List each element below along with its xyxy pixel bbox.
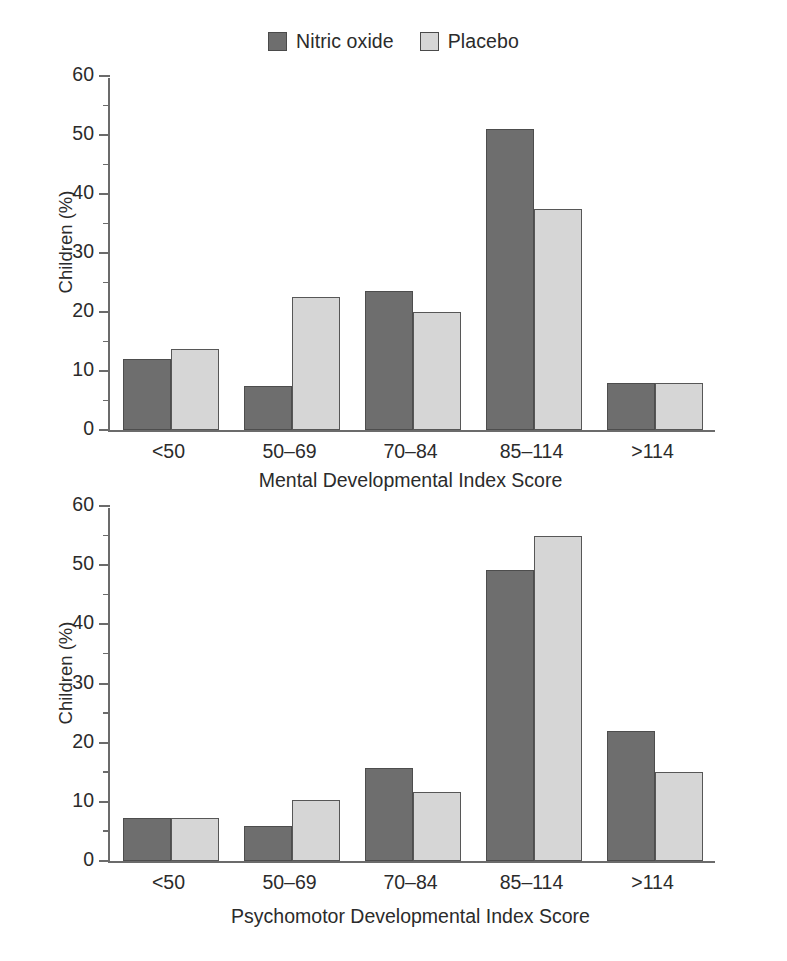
y-axis-tick-mark <box>99 193 110 195</box>
y-axis-tick-mark <box>103 594 110 596</box>
y-axis-tick-label: 50 <box>72 122 94 145</box>
x-axis-tick-label: <50 <box>119 440 219 463</box>
y-axis-tick-label: 10 <box>72 789 94 812</box>
bar-nitric-oxide[interactable] <box>123 359 171 430</box>
x-axis-tick-label: 85–114 <box>482 871 582 894</box>
y-axis-tick-label: 20 <box>72 730 94 753</box>
bar-placebo[interactable] <box>171 349 219 430</box>
bar-group-70-84 <box>365 768 461 861</box>
x-axis-tick-labels-bottom: <5050–6970–8485–114>114 <box>108 871 713 894</box>
bar-groups-bottom <box>110 508 715 861</box>
chart-legend: Nitric oxide Placebo <box>0 30 787 53</box>
y-axis-tick-label: 30 <box>72 240 94 263</box>
y-axis-tick-mark <box>103 282 110 284</box>
legend-item-placebo: Placebo <box>420 30 519 53</box>
y-axis-tick-label: 50 <box>72 552 94 575</box>
bar-placebo[interactable] <box>534 209 582 430</box>
bar-group--114 <box>607 731 703 861</box>
y-axis-tick-mark <box>103 535 110 537</box>
bar-placebo[interactable] <box>655 772 703 861</box>
bar-group-85-114 <box>486 129 582 430</box>
y-axis-tick-label: 30 <box>72 671 94 694</box>
y-axis-tick-label: 20 <box>72 299 94 322</box>
plot-area-bottom: 0102030405060 <box>108 508 715 863</box>
bar-placebo[interactable] <box>171 818 219 861</box>
legend-swatch-light-icon <box>420 32 439 51</box>
x-axis-tick-label: >114 <box>603 440 703 463</box>
y-axis-tick-mark <box>103 400 110 402</box>
bar-nitric-oxide[interactable] <box>486 129 534 430</box>
y-axis-tick-mark <box>99 742 110 744</box>
chart-psychomotor-developmental-index: Children (%) 0102030405060 <5050–6970–84… <box>0 496 787 946</box>
bar-nitric-oxide[interactable] <box>244 386 292 430</box>
y-axis-tick-mark <box>103 223 110 225</box>
x-axis-tick-label: <50 <box>119 871 219 894</box>
legend-label-placebo: Placebo <box>448 30 519 53</box>
y-axis-tick-mark <box>99 252 110 254</box>
bar-placebo[interactable] <box>413 792 461 861</box>
chart-mental-developmental-index: Children (%) 0102030405060 <5050–6970–84… <box>0 66 787 496</box>
y-axis-tick-mark <box>99 623 110 625</box>
y-axis-tick-mark <box>103 653 110 655</box>
bar-group--114 <box>607 383 703 430</box>
bar-placebo[interactable] <box>292 800 340 861</box>
y-axis-tick-mark <box>99 370 110 372</box>
bar-placebo[interactable] <box>292 297 340 430</box>
bar-group-50-69 <box>244 800 340 861</box>
bar-placebo[interactable] <box>534 536 582 861</box>
y-axis-tick-label: 40 <box>72 181 94 204</box>
x-axis-tick-label: 85–114 <box>482 440 582 463</box>
x-axis-tick-label: 50–69 <box>240 871 340 894</box>
bar-nitric-oxide[interactable] <box>365 291 413 430</box>
x-axis-title-top: Mental Developmental Index Score <box>108 469 713 492</box>
y-axis-tick-mark <box>103 164 110 166</box>
y-axis-tick-label: 0 <box>83 417 94 440</box>
bar-group-50-69 <box>244 297 340 430</box>
x-axis-tick-label: 70–84 <box>361 440 461 463</box>
y-axis-tick-mark <box>99 429 110 431</box>
y-axis-tick-mark <box>99 505 110 507</box>
legend-label-nitric-oxide: Nitric oxide <box>296 30 394 53</box>
bar-nitric-oxide[interactable] <box>244 826 292 862</box>
x-axis-tick-label: 70–84 <box>361 871 461 894</box>
y-axis-tick-mark <box>99 860 110 862</box>
y-axis-tick-mark <box>99 564 110 566</box>
bar-groups-top <box>110 78 715 430</box>
y-axis-tick-mark <box>99 134 110 136</box>
x-axis-title-bottom: Psychomotor Developmental Index Score <box>108 905 713 928</box>
y-axis-tick-label: 0 <box>83 848 94 871</box>
y-axis-tick-mark <box>99 311 110 313</box>
y-axis-tick-mark <box>99 75 110 77</box>
y-axis-tick-label: 60 <box>72 493 94 516</box>
legend-item-nitric-oxide: Nitric oxide <box>268 30 394 53</box>
x-axis-tick-labels-top: <5050–6970–8485–114>114 <box>108 440 713 463</box>
y-axis-tick-mark <box>103 712 110 714</box>
bar-nitric-oxide[interactable] <box>486 570 534 861</box>
x-axis-tick-label: 50–69 <box>240 440 340 463</box>
figure-root: Nitric oxide Placebo Children (%) 010203… <box>0 0 787 961</box>
y-axis-tick-mark <box>103 771 110 773</box>
y-axis-tick-mark <box>103 830 110 832</box>
y-axis-tick-mark <box>99 683 110 685</box>
bar-group--50 <box>123 818 219 861</box>
y-axis-tick-mark <box>103 341 110 343</box>
plot-area-top: 0102030405060 <box>108 78 715 432</box>
bar-group--50 <box>123 349 219 430</box>
bar-placebo[interactable] <box>655 383 703 430</box>
bar-group-70-84 <box>365 291 461 430</box>
y-axis-tick-mark <box>103 105 110 107</box>
y-axis-tick-label: 60 <box>72 63 94 86</box>
y-axis-tick-label: 10 <box>72 358 94 381</box>
bar-nitric-oxide[interactable] <box>123 818 171 861</box>
bar-placebo[interactable] <box>413 312 461 430</box>
x-axis-tick-label: >114 <box>603 871 703 894</box>
bar-nitric-oxide[interactable] <box>607 731 655 861</box>
bar-group-85-114 <box>486 536 582 861</box>
y-axis-tick-mark <box>99 801 110 803</box>
bar-nitric-oxide[interactable] <box>607 383 655 430</box>
legend-swatch-dark-icon <box>268 32 287 51</box>
y-axis-tick-label: 40 <box>72 611 94 634</box>
bar-nitric-oxide[interactable] <box>365 768 413 861</box>
